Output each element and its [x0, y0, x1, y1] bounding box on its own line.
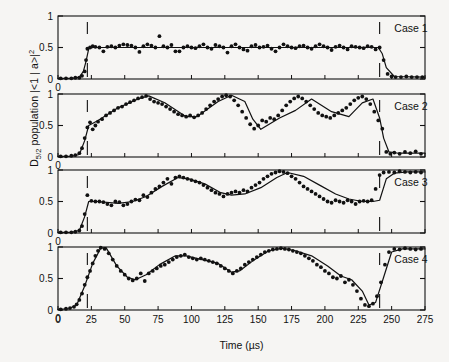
data-point — [268, 116, 272, 120]
data-point — [367, 304, 371, 308]
data-point — [378, 173, 382, 177]
data-point — [64, 154, 68, 158]
data-point — [93, 124, 97, 128]
y-tick-label: 0 — [47, 305, 53, 316]
data-point — [100, 117, 104, 121]
data-point — [322, 44, 326, 48]
data-point — [69, 154, 73, 158]
data-point — [194, 179, 198, 183]
panel-3: 00.510Case 3 — [39, 165, 428, 247]
data-point — [238, 191, 242, 195]
data-point — [362, 199, 366, 203]
data-point — [310, 190, 314, 194]
data-point — [164, 105, 168, 109]
data-point — [218, 44, 222, 48]
data-point — [176, 112, 180, 116]
data-point — [414, 149, 418, 153]
data-point — [298, 181, 302, 185]
data-point — [398, 248, 402, 252]
data-point — [231, 272, 235, 276]
data-point — [239, 267, 243, 271]
data-point — [387, 170, 391, 174]
data-point — [182, 176, 186, 180]
data-point — [91, 261, 95, 265]
data-point — [69, 230, 73, 234]
data-point — [200, 111, 204, 115]
data-point — [251, 258, 255, 262]
data-point — [302, 44, 306, 48]
data-point — [318, 42, 322, 46]
data-point — [203, 258, 207, 262]
data-point — [160, 102, 164, 106]
data-point — [178, 174, 182, 178]
data-point — [134, 46, 138, 50]
data-point — [148, 97, 152, 101]
data-point — [132, 98, 136, 102]
data-point — [204, 107, 208, 111]
data-point — [96, 120, 100, 124]
data-point — [302, 184, 306, 188]
data-point — [103, 247, 107, 251]
data-point — [263, 250, 267, 254]
data-point — [319, 265, 323, 269]
data-point — [398, 169, 402, 173]
data-point — [138, 198, 142, 202]
data-point — [374, 47, 378, 51]
y-axis-label-d: D — [28, 159, 40, 167]
data-point — [214, 191, 218, 195]
data-point — [77, 151, 81, 155]
data-point — [144, 94, 148, 98]
data-point — [83, 70, 87, 74]
data-point — [107, 251, 111, 255]
data-point — [172, 110, 176, 114]
data-point — [85, 125, 89, 129]
data-point — [242, 47, 246, 51]
data-point — [127, 277, 131, 281]
data-point — [410, 75, 414, 79]
data-point — [262, 177, 266, 181]
data-point — [105, 45, 109, 49]
data-point — [366, 200, 370, 204]
data-point — [354, 45, 358, 49]
x-tick-label: 25 — [86, 314, 98, 325]
data-point — [83, 283, 87, 287]
data-point — [286, 171, 290, 175]
data-point — [303, 254, 307, 258]
data-point — [131, 278, 135, 282]
data-point — [97, 200, 101, 204]
data-point — [85, 193, 89, 197]
data-point — [136, 97, 140, 101]
data-point — [390, 75, 394, 79]
data-point — [234, 190, 238, 194]
data-point — [318, 195, 322, 199]
data-point — [73, 230, 77, 234]
data-point — [362, 46, 366, 50]
data-point — [216, 97, 220, 101]
data-point — [212, 100, 216, 104]
y-tick-label: 1 — [47, 11, 53, 22]
data-point — [222, 46, 226, 50]
data-point — [147, 272, 151, 276]
data-point — [59, 76, 63, 80]
data-point — [414, 170, 418, 174]
data-point — [111, 258, 115, 262]
data-point — [154, 187, 158, 191]
y-tick-label: 0 — [47, 152, 53, 163]
data-point — [223, 267, 227, 271]
data-point — [64, 230, 68, 234]
x-tick-label: 125 — [216, 314, 233, 325]
x-tick-label: 50 — [119, 314, 131, 325]
data-point — [230, 191, 234, 195]
data-point — [286, 44, 290, 48]
data-point — [186, 44, 190, 48]
data-point — [211, 260, 215, 264]
data-point — [315, 263, 319, 267]
data-point — [142, 44, 146, 48]
origin-zero-label: 0 — [55, 82, 61, 93]
data-point — [258, 181, 262, 185]
data-point — [195, 258, 199, 262]
fit-curve — [58, 48, 425, 79]
data-point — [372, 110, 376, 114]
data-point — [192, 115, 196, 119]
data-point — [250, 186, 254, 190]
